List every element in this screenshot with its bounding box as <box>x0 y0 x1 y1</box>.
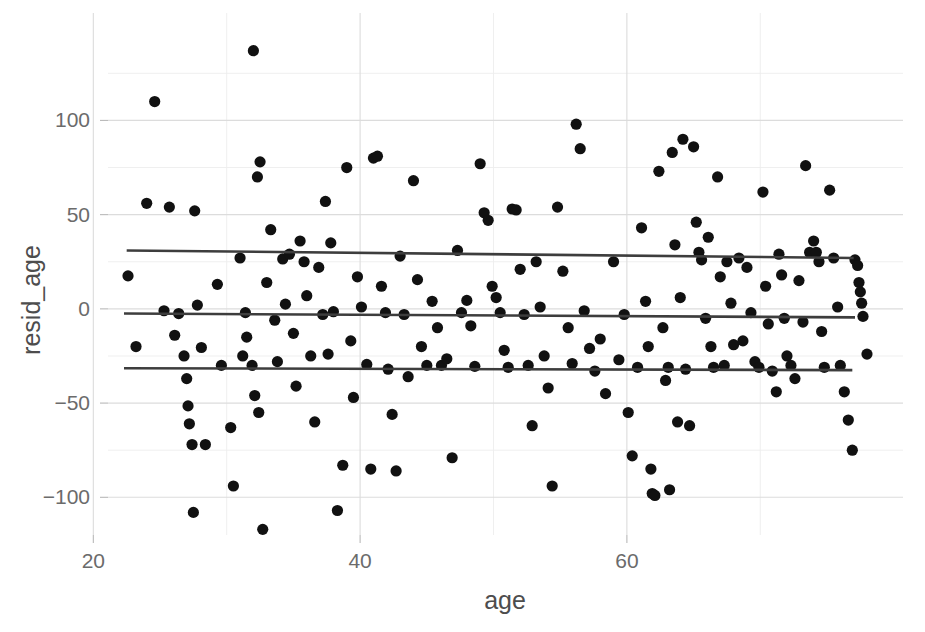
data-point <box>290 381 301 392</box>
data-point <box>672 416 683 427</box>
data-point <box>677 134 688 145</box>
data-point <box>122 270 133 281</box>
data-point <box>487 281 498 292</box>
data-point <box>192 299 203 310</box>
data-point <box>475 158 486 169</box>
data-point <box>483 215 494 226</box>
data-point <box>447 452 458 463</box>
data-point <box>320 196 331 207</box>
data-point <box>380 307 391 318</box>
data-point <box>503 362 514 373</box>
data-point <box>376 281 387 292</box>
data-point <box>552 202 563 213</box>
data-point <box>589 365 600 376</box>
data-point <box>793 275 804 286</box>
data-point <box>511 204 522 215</box>
data-point <box>387 409 398 420</box>
data-point <box>715 271 726 282</box>
data-point <box>543 382 554 393</box>
data-point <box>261 277 272 288</box>
data-point <box>557 266 568 277</box>
data-point <box>416 341 427 352</box>
data-point <box>843 414 854 425</box>
data-point <box>284 249 295 260</box>
data-point <box>608 256 619 267</box>
data-point <box>253 407 264 418</box>
data-point <box>461 295 472 306</box>
data-point <box>753 362 764 373</box>
data-point <box>847 445 858 456</box>
data-point <box>332 505 343 516</box>
data-point <box>708 362 719 373</box>
data-point <box>169 330 180 341</box>
data-point <box>249 390 260 401</box>
data-point <box>345 335 356 346</box>
data-point <box>515 264 526 275</box>
data-point <box>527 420 538 431</box>
data-point <box>200 439 211 450</box>
data-point <box>182 400 193 411</box>
data-point <box>832 301 843 312</box>
data-point <box>365 463 376 474</box>
data-point <box>352 271 363 282</box>
data-point <box>595 333 606 344</box>
data-point <box>269 315 280 326</box>
data-point <box>584 343 595 354</box>
data-point <box>627 450 638 461</box>
x-tick-label: 40 <box>348 549 371 572</box>
data-point <box>669 239 680 250</box>
plot-canvas: −100−50050100 204060 resid_age age <box>0 0 925 632</box>
data-point <box>212 279 223 290</box>
data-point <box>294 235 305 246</box>
data-point <box>240 307 251 318</box>
data-point <box>237 350 248 361</box>
data-point <box>839 386 850 397</box>
data-point <box>341 162 352 173</box>
data-point <box>684 420 695 431</box>
data-point <box>703 232 714 243</box>
data-point <box>535 301 546 312</box>
data-point <box>539 350 550 361</box>
data-point <box>640 296 651 307</box>
data-point <box>667 147 678 158</box>
data-point <box>325 237 336 248</box>
data-point <box>771 386 782 397</box>
data-point <box>499 345 510 356</box>
data-point <box>660 375 671 386</box>
data-point <box>571 119 582 130</box>
data-point <box>412 274 423 285</box>
data-point <box>675 292 686 303</box>
data-point <box>225 422 236 433</box>
data-point <box>856 298 867 309</box>
data-point <box>189 205 200 216</box>
data-point <box>288 328 299 339</box>
data-point <box>567 358 578 369</box>
data-point <box>196 342 207 353</box>
data-point <box>241 332 252 343</box>
data-point <box>432 322 443 333</box>
data-point <box>811 247 822 258</box>
data-point <box>808 235 819 246</box>
data-point <box>547 480 558 491</box>
data-point <box>664 484 675 495</box>
data-point <box>234 252 245 263</box>
data-point <box>653 166 664 177</box>
data-point <box>632 362 643 373</box>
data-point <box>252 171 263 182</box>
data-point <box>853 277 864 288</box>
data-point <box>178 350 189 361</box>
y-tick-label: 100 <box>55 108 90 131</box>
data-point <box>575 143 586 154</box>
data-point <box>789 373 800 384</box>
data-point <box>298 256 309 267</box>
data-point <box>563 322 574 333</box>
data-point <box>613 354 624 365</box>
data-point <box>257 524 268 535</box>
data-point <box>248 45 259 56</box>
data-point <box>184 418 195 429</box>
data-point <box>531 256 542 267</box>
data-point <box>491 292 502 303</box>
data-point <box>852 260 863 271</box>
data-point <box>164 202 175 213</box>
data-point <box>861 348 872 359</box>
